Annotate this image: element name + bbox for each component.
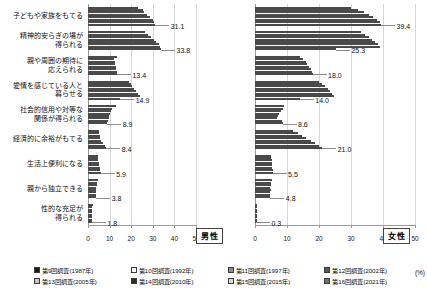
value-leader-line [270, 198, 284, 199]
value-label: 14.0 [315, 96, 329, 103]
x-tick [131, 225, 132, 228]
value-leader-line [256, 222, 270, 223]
x-tick-label: 0 [253, 235, 257, 242]
category-label-column: 子どもや家族をもてる精神的安らぎの場が 得られる親や周囲の期待に 応えられる愛情… [0, 4, 86, 226]
legend-label: 第9回調査(1987年) [42, 267, 93, 274]
legend-swatch-icon [34, 267, 40, 273]
legend-item[interactable]: 第10回調査(1992年) [131, 265, 228, 275]
bar [88, 73, 117, 75]
bar [88, 48, 161, 50]
value-leader-line [313, 74, 327, 75]
x-tick [110, 225, 111, 228]
bar-group [88, 204, 196, 224]
bar-group [255, 31, 415, 51]
legend-row-2: 第13回調査(2005年)第14回調査(2010年)第15回調査(2015年)第… [34, 276, 421, 286]
legend-label: 第12回調査(2002年) [332, 267, 387, 274]
legend-swatch-icon [131, 267, 137, 273]
x-tick-label: 30 [149, 235, 156, 242]
bar [88, 122, 107, 124]
panel-title-female: 女性 [383, 228, 410, 244]
legend-item[interactable]: 第16回調査(2021年) [324, 276, 421, 286]
x-tick [174, 225, 175, 228]
value-leader-line [96, 198, 110, 199]
value-leader-line [336, 50, 350, 51]
value-leader-line [283, 124, 297, 125]
x-tick [255, 225, 256, 228]
chart-panel-female: 39.425.318.014.08.621.05.54.80.3 0102030… [255, 4, 415, 242]
bar [255, 73, 313, 75]
category-label: 性的な充足が 得られる [0, 205, 83, 222]
value-label: 3.8 [112, 195, 122, 202]
value-leader-line [120, 99, 134, 100]
bar [255, 147, 322, 149]
bar-group [255, 105, 415, 125]
bar [255, 98, 300, 100]
bar-group [255, 130, 415, 150]
bar [255, 24, 381, 26]
x-axis-male [88, 225, 196, 226]
x-tick [153, 225, 154, 228]
x-tick-label: 10 [106, 235, 113, 242]
bar [255, 196, 270, 198]
x-tick-label: 20 [315, 235, 322, 242]
gridline [196, 4, 197, 226]
legend-label: 第13回調査(2005年) [42, 278, 97, 285]
legend-item[interactable]: 第11回調査(1997年) [228, 265, 325, 275]
value-label: 8.6 [298, 121, 308, 128]
x-tick-label: 10 [283, 235, 290, 242]
value-label: 14.9 [136, 96, 150, 103]
category-label: 愛情を感じている人と 暮らせる [0, 82, 83, 99]
x-tick-label: 0 [86, 235, 90, 242]
bar-group [88, 130, 196, 150]
gridline [415, 4, 416, 226]
legend-item[interactable]: 第13回調査(2005年) [34, 276, 131, 286]
value-leader-line [155, 25, 169, 26]
category-label: 親から独立できる [0, 185, 83, 194]
bar [255, 48, 336, 50]
panel-title-male: 男性 [196, 228, 223, 244]
bar [255, 172, 273, 174]
bar-group [255, 7, 415, 27]
value-label: 33.8 [177, 47, 191, 54]
x-tick-label: 40 [171, 235, 178, 242]
value-label: 21.0 [338, 145, 352, 152]
value-label: 0.3 [271, 219, 281, 226]
x-tick-label: 20 [128, 235, 135, 242]
category-label: 精神的安らぎの場が 得られる [0, 32, 83, 49]
value-label: 31.1 [171, 22, 185, 29]
legend-swatch-icon [324, 278, 330, 284]
chart-legend: 第9回調査(1987年)第10回調査(1992年)第11回調査(1997年)第1… [34, 265, 421, 289]
x-tick [415, 225, 416, 228]
legend-label: 第10回調査(1992年) [139, 267, 194, 274]
value-leader-line [117, 74, 131, 75]
bar-group [88, 179, 196, 199]
bar-group [255, 155, 415, 175]
legend-label: 第11回調査(1997年) [236, 267, 290, 274]
value-leader-line [101, 173, 115, 174]
value-label: 5.9 [116, 170, 126, 177]
value-label: 5.5 [288, 170, 298, 177]
legend-swatch-icon [131, 278, 137, 284]
value-leader-line [322, 148, 336, 149]
bar-group [88, 155, 196, 175]
category-label: 親や周囲の期待に 応えられる [0, 57, 83, 74]
legend-label: 第15回調査(2015年) [236, 278, 291, 285]
value-leader-line [92, 222, 106, 223]
legend-item[interactable]: 第15回調査(2015年) [228, 276, 325, 286]
legend-label: 第14回調査(2010年) [139, 278, 194, 285]
bar-group [88, 105, 196, 125]
value-leader-line [161, 50, 175, 51]
bar [88, 98, 120, 100]
legend-item[interactable]: 第12回調査(2002年) [324, 265, 421, 275]
x-tick [351, 225, 352, 228]
value-leader-line [273, 173, 287, 174]
value-label: 4.8 [286, 195, 296, 202]
chart-figure: 子どもや家族をもてる精神的安らぎの場が 得られる親や周囲の期待に 応えられる愛情… [0, 0, 427, 292]
category-label: 経済的に余裕がもてる [0, 135, 83, 144]
value-label: 8.4 [122, 145, 132, 152]
bar [88, 147, 106, 149]
legend-item[interactable]: 第9回調査(1987年) [34, 265, 131, 275]
legend-row-1: 第9回調査(1987年)第10回調査(1992年)第11回調査(1997年)第1… [34, 265, 421, 275]
legend-item[interactable]: 第14回調査(2010年) [131, 276, 228, 286]
x-tick-label: 50 [411, 235, 418, 242]
